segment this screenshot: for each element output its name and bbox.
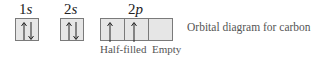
electron-up-icon bbox=[101, 19, 126, 43]
empty-label: Empty bbox=[152, 43, 181, 55]
orbital-box-1s bbox=[15, 18, 39, 41]
orbital-label-2p: 2p bbox=[128, 1, 143, 18]
electron-pair-icon bbox=[16, 19, 40, 43]
orbital-box-2p-2 bbox=[124, 18, 149, 41]
orbital-box-2s bbox=[60, 18, 84, 41]
half-filled-label: Half-filled bbox=[100, 43, 146, 55]
electron-pair-icon bbox=[61, 19, 85, 43]
diagram-caption: Orbital diagram for carbon bbox=[187, 21, 311, 33]
orbital-label-1s: 1s bbox=[19, 1, 32, 18]
electron-up-icon bbox=[125, 19, 150, 43]
orbital-box-2p-3 bbox=[148, 18, 173, 41]
orbital-label-2s: 2s bbox=[64, 1, 77, 18]
orbital-box-2p-1 bbox=[100, 18, 125, 41]
